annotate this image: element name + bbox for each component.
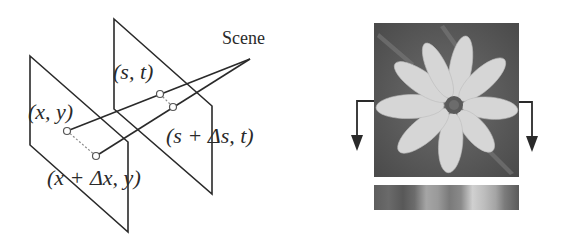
label-s-ds-t: (s + Δs, t) (166, 125, 254, 147)
right-down-arrow-icon (519, 102, 538, 152)
point-sds-icon (170, 104, 177, 111)
flower-photo (374, 23, 519, 177)
point-st-icon (157, 91, 164, 98)
label-x-dx-y: (x + Δx, y) (47, 167, 141, 189)
point-xdx-icon (93, 153, 100, 160)
label-xy: (x, y) (28, 101, 73, 123)
scanline-strip (374, 185, 519, 210)
scene-label: Scene (222, 29, 265, 47)
camera-offset-dotted (67, 131, 96, 156)
point-xy-icon (64, 128, 71, 135)
label-st: (s, t) (113, 61, 153, 83)
left-down-arrow-icon (351, 101, 374, 151)
